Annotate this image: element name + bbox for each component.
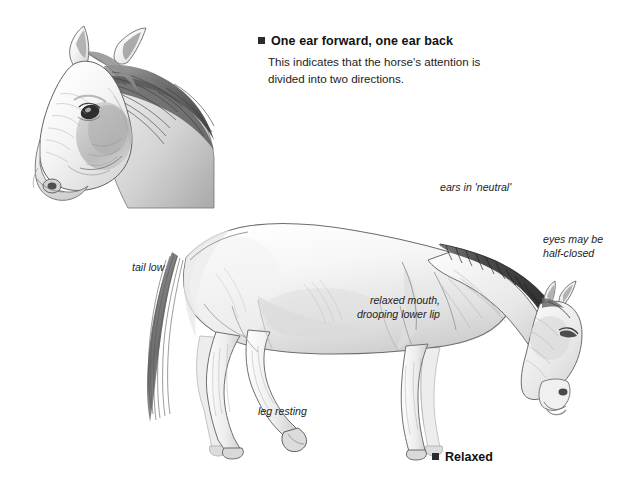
annotation-eyes-line-2: half-closed (543, 247, 603, 261)
annotation-mouth-line-1: relaxed mouth, (330, 294, 440, 308)
annotation-mouth-line-2: drooping lower lip (330, 308, 440, 322)
annotation-eyes-half-closed: eyes may be half-closed (543, 233, 603, 260)
caption-square-bullet-icon (432, 453, 439, 460)
caption-label: Relaxed (445, 450, 493, 464)
figure-caption: Relaxed (432, 450, 493, 464)
callout-title-text: One ear forward, one ear back (271, 34, 453, 48)
annotation-leg-resting: leg resting (258, 405, 307, 419)
annotation-ears-neutral: ears in 'neutral' (440, 181, 511, 195)
callout-body: This indicates that the horse's attentio… (258, 54, 504, 87)
annotation-eyes-line-1: eyes may be (543, 233, 603, 247)
illustration-page: One ear forward, one ear back This indic… (0, 0, 617, 492)
horse-head-illustration (8, 18, 218, 208)
horse-body-illustration (108, 186, 578, 461)
callout-block: One ear forward, one ear back This indic… (258, 34, 508, 87)
annotation-relaxed-mouth: relaxed mouth, drooping lower lip (330, 294, 440, 321)
square-bullet-icon (258, 37, 265, 44)
callout-title: One ear forward, one ear back (258, 34, 508, 49)
annotation-tail-low: tail low (132, 261, 164, 275)
